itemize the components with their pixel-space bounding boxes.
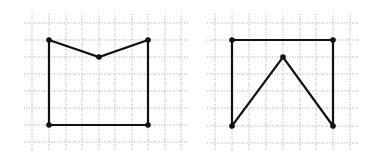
vertex-dot <box>145 122 151 128</box>
vertex-dot <box>145 37 151 43</box>
right-polygon <box>232 40 333 126</box>
right-figure <box>207 14 358 150</box>
vertex-dot <box>330 123 336 129</box>
left-figure <box>24 14 188 150</box>
vertex-dot <box>280 54 286 60</box>
vertex-dot <box>46 37 52 43</box>
left-polygon <box>49 40 148 125</box>
right-vertices <box>229 37 336 129</box>
vertex-dot <box>229 123 235 129</box>
right-grid <box>207 14 358 150</box>
vertex-dot <box>46 122 52 128</box>
vertex-dot <box>96 54 102 60</box>
left-vertices <box>46 37 151 128</box>
vertex-dot <box>330 37 336 43</box>
vertex-dot <box>229 37 235 43</box>
figure-canvas <box>0 0 380 163</box>
